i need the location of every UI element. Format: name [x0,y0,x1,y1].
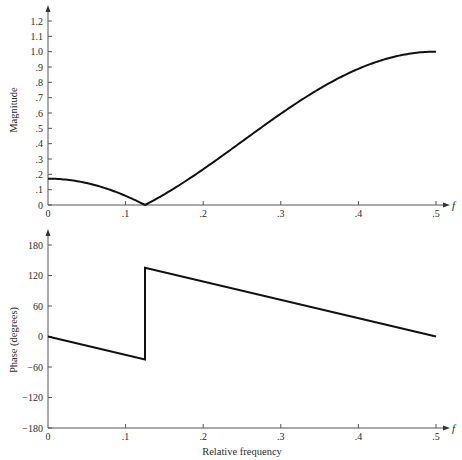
y-tick-label: 0 [38,331,43,342]
x-tick-label: .4 [355,431,363,442]
y-tick-label: .1 [36,184,44,195]
y-tick-label: 180 [28,240,43,251]
x-axis-arrow-icon [443,203,450,208]
relative-frequency-label: Relative frequency [202,446,282,457]
phase-plot: −180−120−600601201800.1.2.3.4.5 [22,229,450,442]
x-axis-arrow-icon [443,426,450,431]
y-tick-label: −60 [27,362,43,373]
x-tick-label: .3 [277,208,285,219]
y-tick-label: .2 [36,169,44,180]
y-tick-label: .5 [36,123,44,134]
x-tick-label: .2 [199,208,207,219]
y-tick-label: .6 [36,108,44,119]
y-tick-label: 60 [33,301,43,312]
y-tick-label: .4 [36,138,44,149]
y-tick-label: .7 [36,92,44,103]
y-tick-label: 1.1 [31,31,44,42]
x-tick-label: .4 [355,208,363,219]
x-tick-label: .5 [432,208,440,219]
y-axis-arrow-icon [46,229,51,236]
magnitude-plot: 0.1.2.3.4.5.6.7.8.91.01.11.20.1.2.3.4.5 [31,5,451,219]
x-tick-label: .3 [277,431,285,442]
y-tick-label: 120 [28,270,43,281]
y-tick-label: −180 [22,423,43,434]
x-tick-label: 0 [46,208,51,219]
x-tick-label: 0 [46,431,51,442]
magnitude-axis-label: Magnitude [8,87,19,133]
y-tick-label: .3 [36,154,44,165]
y-tick-label: −120 [22,392,43,403]
y-tick-label: 1.2 [31,16,44,27]
x-tick-label: .1 [122,208,130,219]
y-tick-label: .9 [36,62,44,73]
x-tick-label: .1 [122,431,130,442]
y-axis-arrow-icon [46,5,51,12]
y-tick-label: 1.0 [31,46,44,57]
magnitude-curve [48,52,436,205]
phase-axis-label: Phase (degrees) [8,306,20,373]
phase-curve [48,268,436,360]
x-tick-label: .2 [199,431,207,442]
y-tick-label: .8 [36,77,44,88]
top-f-symbol: f [452,199,457,211]
x-tick-label: .5 [432,431,440,442]
bottom-f-symbol: f [452,422,457,434]
y-tick-label: 0 [38,200,43,211]
frequency-response-chart: 0.1.2.3.4.5.6.7.8.91.01.11.20.1.2.3.4.5 … [0,0,462,460]
